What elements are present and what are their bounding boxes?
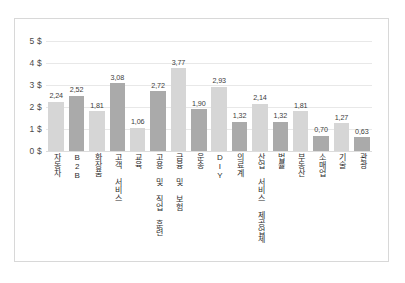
bar-value-label: 3,08 [111, 73, 125, 82]
x-axis-label-slot: 의료계 [229, 153, 249, 253]
bar[interactable] [313, 136, 328, 151]
x-axis-tick-label: 운송 [195, 153, 203, 169]
bar[interactable] [273, 122, 288, 151]
bar-slot: 3,08 [107, 41, 127, 151]
bar-slot: 2,72 [148, 41, 168, 151]
x-axis-tick-label: DIY [215, 153, 223, 180]
bar-slot: 1,27 [331, 41, 351, 151]
bar-slot: 1,32 [229, 41, 249, 151]
x-axis-label-slot: 부동산 [291, 153, 311, 253]
bar-slot: 2,93 [209, 41, 229, 151]
bar[interactable] [69, 96, 84, 151]
bar[interactable] [110, 83, 125, 151]
bar[interactable] [334, 123, 349, 151]
x-axis-tick-label: 금융 및 보험 [174, 153, 182, 211]
x-axis-label-slot: 관광 [352, 153, 372, 253]
y-axis-tick-label: 0 $ [30, 146, 42, 156]
x-axis-tick-label: 교육 [133, 153, 141, 169]
x-axis-tick-label: 법률 [276, 153, 284, 169]
bar-slot: 1,81 [87, 41, 107, 151]
x-axis-label-slot: 법률 [270, 153, 290, 253]
bar-slot: 1,90 [189, 41, 209, 151]
x-axis-tick-label: 기술 [337, 153, 345, 169]
bar[interactable] [89, 111, 104, 151]
bar-value-label: 2,24 [49, 91, 63, 100]
bar-value-label: 2,14 [253, 93, 267, 102]
bar-value-label: 1,81 [90, 101, 104, 110]
bar-value-label: 2,52 [70, 85, 84, 94]
y-axis-tick-label: 3 $ [30, 80, 42, 90]
x-axis: 자동차B2B화장품고객 서비스교육고용 및 직업 훈련금융 및 보험운송DIY의… [46, 153, 372, 253]
x-axis-label-slot: 산업 서비스 제공업체 [250, 153, 270, 253]
bar[interactable] [252, 104, 267, 151]
x-axis-label-slot: 화장품 [87, 153, 107, 253]
y-axis-tick-label: 1 $ [30, 124, 42, 134]
bar-value-label: 1,81 [294, 101, 308, 110]
bar-value-label: 3,77 [172, 58, 186, 67]
y-axis: 0 $1 $2 $3 $4 $5 $ [15, 41, 45, 151]
bar-value-label: 1,32 [274, 111, 288, 120]
x-axis-label-slot: B2B [66, 153, 86, 253]
bar[interactable] [48, 102, 63, 151]
bar-slot: 1,06 [128, 41, 148, 151]
bar[interactable] [232, 122, 247, 151]
x-axis-tick-label: 고객 서비스 [113, 153, 121, 202]
y-axis-tick-label: 2 $ [30, 102, 42, 112]
bar-value-label: 2,93 [212, 76, 226, 85]
bar[interactable] [150, 91, 165, 151]
x-axis-label-slot: 고객 서비스 [107, 153, 127, 253]
x-axis-label-slot: 금융 및 보험 [168, 153, 188, 253]
bar-slot: 2,24 [46, 41, 66, 151]
x-axis-label-slot: DIY [209, 153, 229, 253]
bar-slot: 2,52 [66, 41, 86, 151]
bar-value-label: 0,63 [355, 127, 369, 136]
bar-slot: 1,32 [270, 41, 290, 151]
bar-slot: 3,77 [168, 41, 188, 151]
bars-layer: 2,242,521,813,081,062,723,771,902,931,32… [46, 41, 372, 151]
bar-slot: 2,14 [250, 41, 270, 151]
bar-value-label: 0,70 [314, 125, 328, 134]
bar[interactable] [171, 68, 186, 151]
bar[interactable] [354, 137, 369, 151]
bar[interactable] [191, 109, 206, 151]
x-axis-tick-label: 자동차 [52, 153, 60, 177]
x-axis-label-slot: 운송 [189, 153, 209, 253]
chart-container: 0 $1 $2 $3 $4 $5 $ 2,242,521,813,081,062… [14, 18, 389, 262]
x-axis-label-slot: 소매업 [311, 153, 331, 253]
x-axis-tick-label: 부동산 [296, 153, 304, 177]
y-axis-tick-label: 5 $ [30, 36, 42, 46]
x-axis-tick-label: 소매업 [317, 153, 325, 177]
x-axis-label-slot: 자동차 [46, 153, 66, 253]
x-axis-tick-label: B2B [72, 153, 80, 180]
bar-value-label: 1,27 [335, 113, 349, 122]
x-axis-label-slot: 기술 [331, 153, 351, 253]
bar[interactable] [211, 87, 226, 151]
bar-value-label: 1,06 [131, 117, 145, 126]
bar[interactable] [293, 111, 308, 151]
x-axis-tick-label: 관광 [358, 153, 366, 169]
bar-value-label: 1,90 [192, 99, 206, 108]
bar-slot: 1,81 [291, 41, 311, 151]
x-axis-tick-label: 산업 서비스 제공업체 [256, 153, 264, 243]
x-axis-tick-label: 화장품 [93, 153, 101, 177]
y-axis-tick-label: 4 $ [30, 58, 42, 68]
bar-slot: 0,63 [352, 41, 372, 151]
bar-slot: 0,70 [311, 41, 331, 151]
gridline [46, 151, 372, 152]
x-axis-label-slot: 교육 [128, 153, 148, 253]
bar-value-label: 1,32 [233, 111, 247, 120]
x-axis-label-slot: 고용 및 직업 훈련 [148, 153, 168, 253]
bar-value-label: 2,72 [151, 81, 165, 90]
bar[interactable] [130, 128, 145, 151]
x-axis-tick-label: 고용 및 직업 훈련 [154, 153, 162, 236]
x-axis-tick-label: 의료계 [235, 153, 243, 177]
